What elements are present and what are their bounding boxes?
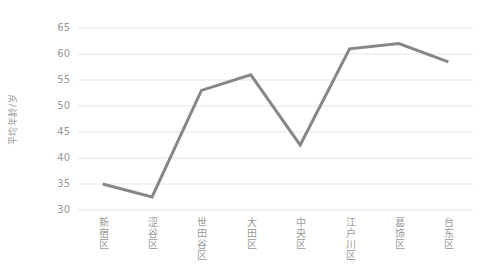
line-chart: 平均年龄/岁 3035404550556065 新宿区涩谷区世田谷区大田区中央区… (0, 0, 500, 269)
x-tick-label: 大田区 (243, 217, 258, 250)
y-tick-label: 65 (57, 21, 70, 35)
y-tick-label: 35 (57, 177, 70, 191)
y-tick-label: 60 (57, 47, 70, 61)
y-tick-label: 45 (57, 125, 70, 139)
y-tick-label: 30 (57, 203, 70, 217)
x-tick-label: 中央区 (293, 217, 308, 250)
x-tick-label: 台东区 (441, 217, 456, 250)
x-tick-label: 新宿区 (95, 217, 110, 250)
x-tick-label: 涩谷区 (145, 217, 160, 250)
y-tick-label: 55 (57, 73, 70, 87)
y-tick-label: 40 (57, 151, 70, 165)
y-tick-label: 50 (57, 99, 70, 113)
x-tick-label: 世田谷区 (194, 217, 209, 261)
x-tick-label: 葛饰区 (391, 217, 406, 250)
data-line (103, 44, 449, 197)
x-tick-label: 江户川区 (342, 217, 357, 261)
